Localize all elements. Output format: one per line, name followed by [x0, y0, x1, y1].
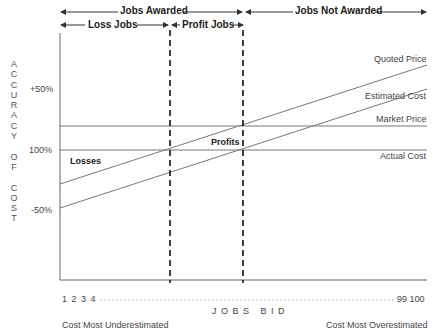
- jobs-awarded-label: Jobs Awarded: [120, 5, 188, 16]
- cost-most-underestimated: Cost Most Underestimated: [62, 320, 169, 330]
- profit-jobs-label: Profit Jobs: [182, 19, 234, 30]
- actual-cost-label: Actual Cost: [380, 151, 426, 161]
- jobs-not-awarded-label: Jobs Not Awarded: [295, 5, 382, 16]
- chart-canvas: [0, 0, 435, 336]
- profits-annotation: Profits: [211, 137, 240, 147]
- losses-annotation: Losses: [70, 156, 101, 166]
- market-price-label: Market Price: [376, 114, 427, 124]
- y-axis-title: ACCURACYOFCOST: [9, 59, 19, 224]
- x-ticks-right: 99 100: [397, 294, 425, 304]
- y-tick-minus50: -50%: [31, 205, 52, 215]
- y-tick-100: 100%: [29, 145, 52, 155]
- quoted-price-label: Quoted Price: [374, 54, 427, 64]
- x-ticks-left: 1 2 3 4: [62, 294, 97, 304]
- x-axis-title: J O B S B I D: [212, 306, 286, 316]
- cost-most-overestimated: Cost Most Overestimated: [326, 320, 428, 330]
- loss-jobs-label: Loss Jobs: [88, 19, 137, 30]
- estimated-cost-label: Estimated Cost: [365, 91, 426, 101]
- y-tick-plus50: +50%: [30, 84, 53, 94]
